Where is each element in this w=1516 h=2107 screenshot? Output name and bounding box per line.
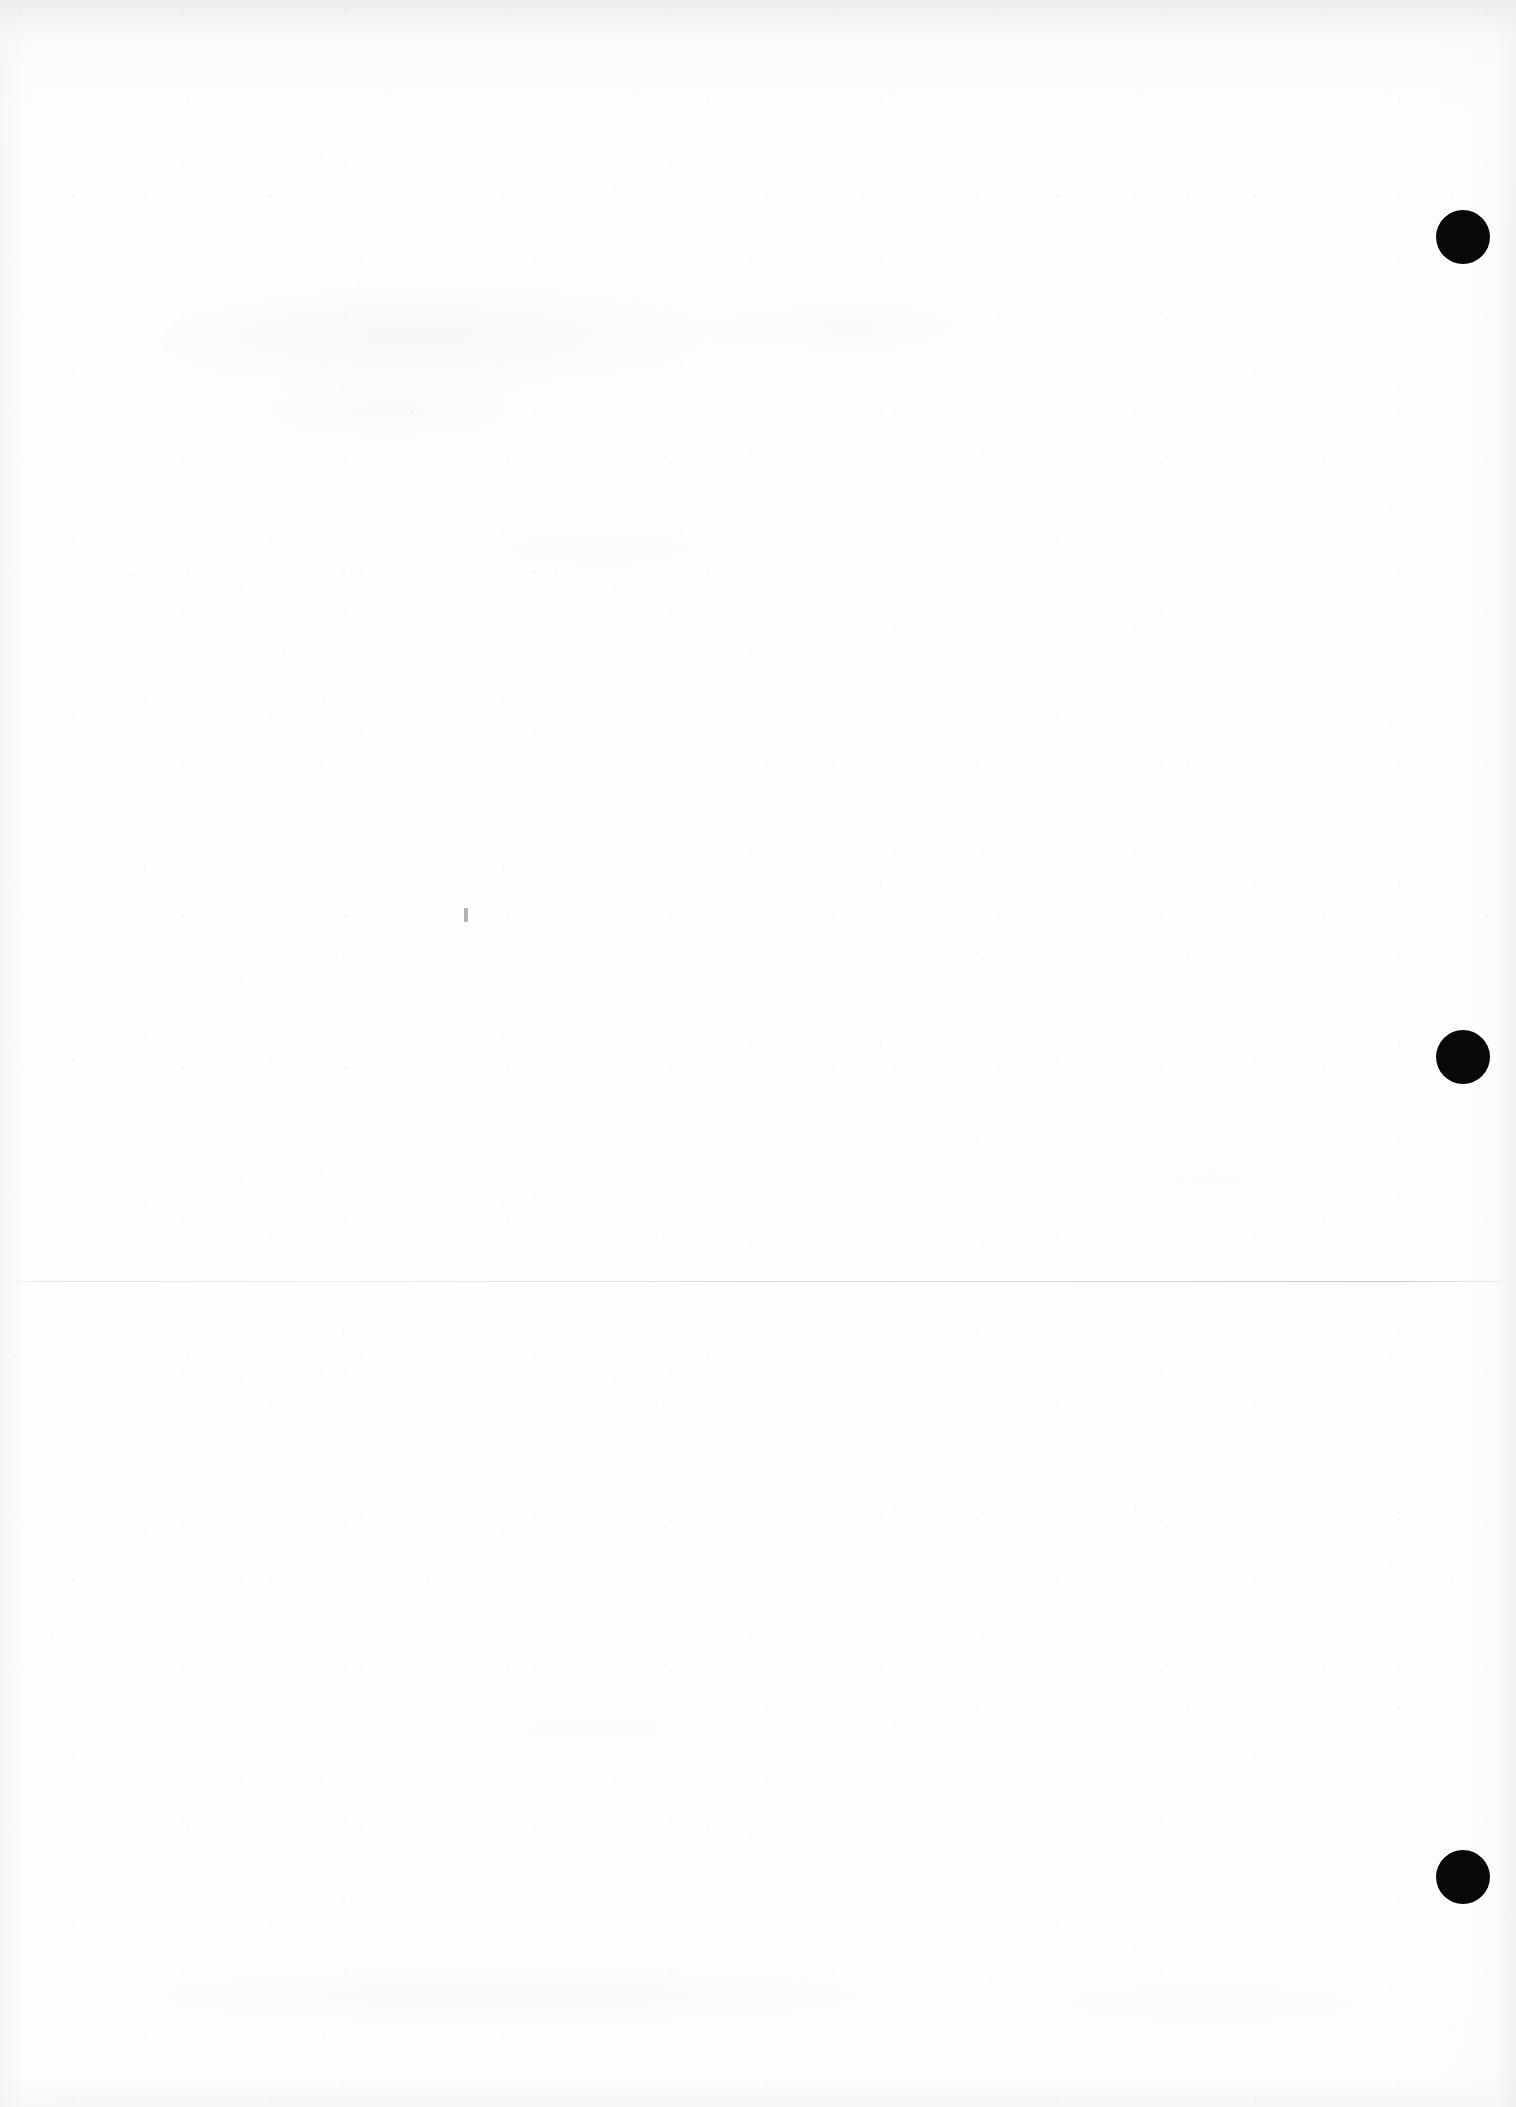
registration-dot-bottom	[1436, 1850, 1490, 1904]
registration-dot-middle	[1436, 1030, 1490, 1084]
registration-dot-top	[1436, 210, 1490, 264]
paper-surface	[0, 0, 1516, 2107]
horizontal-fold-line	[0, 1281, 1502, 1282]
scanned-page	[0, 0, 1516, 2107]
ink-fleck	[464, 908, 468, 922]
